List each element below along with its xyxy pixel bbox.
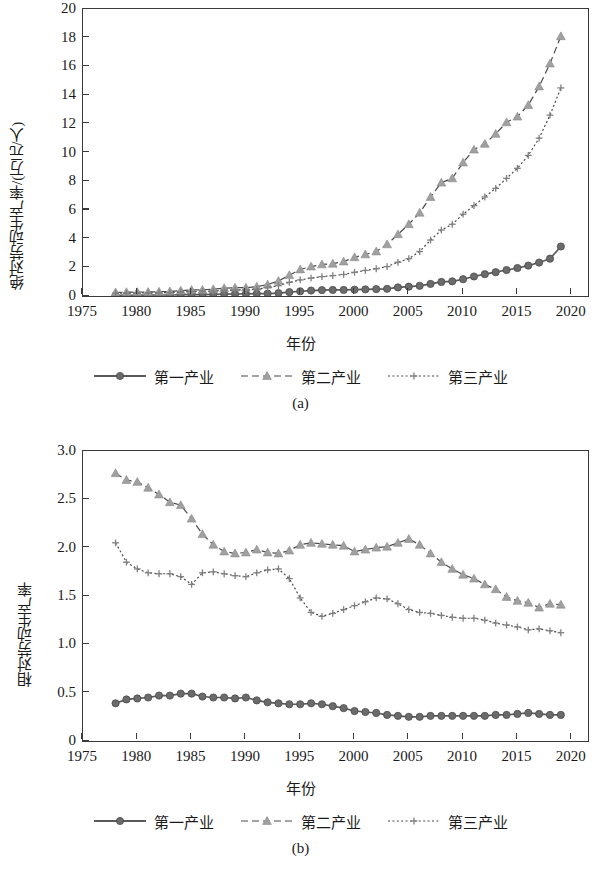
x-tick-label: 1980 — [121, 748, 151, 765]
x-tick-label: 1975 — [67, 748, 97, 765]
legend-item-2: 第二产业 — [240, 811, 361, 832]
x-tick-label: 1980 — [121, 303, 151, 320]
legend-swatch-plus-icon — [387, 368, 441, 384]
x-tick-label: 2000 — [339, 303, 369, 320]
legend-item-1: 第一产业 — [93, 811, 214, 832]
y-tick-label: 6 — [69, 200, 77, 217]
y-tick-label: 8 — [69, 172, 77, 189]
y-tick-label: 2.0 — [57, 538, 76, 555]
panel-b-y-tick-labels: 00.51.01.52.02.53.0 — [20, 432, 76, 762]
panel-b: 相对劳动生产率 00.51.01.52.02.53.0 197519801985… — [0, 432, 601, 878]
y-tick-label: 2 — [69, 258, 77, 275]
legend-swatch-circle-icon — [93, 813, 147, 829]
y-tick-label: 18 — [61, 28, 76, 45]
legend-item-3: 第三产业 — [387, 811, 508, 832]
y-tick-label: 1.5 — [57, 587, 76, 604]
x-tick-label: 2005 — [393, 303, 423, 320]
panel-a-legend: 第一产业第二产业第三产业 — [0, 364, 601, 388]
y-tick-label: 10 — [61, 143, 76, 160]
legend-label: 第一产业 — [154, 366, 214, 387]
legend-label: 第三产业 — [448, 366, 508, 387]
legend-label: 第二产业 — [301, 366, 361, 387]
x-tick-label: 1990 — [230, 748, 260, 765]
x-tick-label: 1990 — [230, 303, 260, 320]
y-tick-label: 0.5 — [57, 683, 76, 700]
panel-b-plot-area — [82, 450, 589, 742]
x-tick-label: 1995 — [284, 748, 314, 765]
panel-b-x-axis-label: 年份 — [0, 777, 601, 798]
x-tick-label: 2015 — [501, 303, 531, 320]
panel-a-x-tick-labels: 1975198019851990199520002005201020152020 — [0, 303, 601, 325]
x-tick-label: 2020 — [556, 748, 586, 765]
x-tick-label: 2005 — [393, 748, 423, 765]
y-tick-label: 0 — [69, 287, 77, 304]
legend-swatch-triangle-icon — [240, 813, 294, 829]
legend-item-3: 第三产业 — [387, 366, 508, 387]
x-tick-label: 1985 — [176, 748, 206, 765]
panel-a-plot-area — [82, 8, 589, 297]
panel-a-series-canvas — [83, 9, 588, 296]
legend-swatch-circle-icon — [93, 368, 147, 384]
y-tick-label: 12 — [61, 114, 76, 131]
panel-a-y-tick-labels: 02468101214161820 — [20, 0, 76, 300]
y-tick-label: 2.5 — [57, 490, 76, 507]
x-tick-label: 2020 — [556, 303, 586, 320]
legend-label: 第二产业 — [301, 811, 361, 832]
y-tick-label: 4 — [69, 229, 77, 246]
legend-item-1: 第一产业 — [93, 366, 214, 387]
x-tick-label: 2000 — [339, 748, 369, 765]
panel-a: 绝对劳动生产率/(万元/人) 02468101214161820 1975198… — [0, 0, 601, 432]
y-tick-label: 3.0 — [57, 442, 76, 459]
x-tick-label: 1995 — [284, 303, 314, 320]
x-tick-label: 2010 — [447, 748, 477, 765]
panel-a-sublabel: (a) — [0, 395, 601, 412]
x-tick-label: 1975 — [67, 303, 97, 320]
legend-item-2: 第二产业 — [240, 366, 361, 387]
y-tick-label: 20 — [61, 0, 76, 17]
x-tick-label: 2010 — [447, 303, 477, 320]
y-tick-label: 1.0 — [57, 635, 76, 652]
y-tick-label: 14 — [61, 86, 76, 103]
panel-b-series-canvas — [83, 451, 588, 741]
panel-b-sublabel: (b) — [0, 840, 601, 857]
panel-b-x-tick-labels: 1975198019851990199520002005201020152020 — [0, 748, 601, 770]
panel-b-legend: 第一产业第二产业第三产业 — [0, 809, 601, 833]
x-tick-label: 2015 — [501, 748, 531, 765]
panel-a-x-axis-label: 年份 — [0, 332, 601, 353]
y-tick-label: 16 — [61, 57, 76, 74]
legend-label: 第三产业 — [448, 811, 508, 832]
legend-swatch-triangle-icon — [240, 368, 294, 384]
legend-label: 第一产业 — [154, 811, 214, 832]
legend-swatch-plus-icon — [387, 813, 441, 829]
x-tick-label: 1985 — [176, 303, 206, 320]
y-tick-label: 0 — [69, 732, 77, 749]
